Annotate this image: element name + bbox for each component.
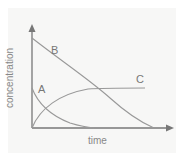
axes	[29, 24, 175, 132]
series-B-label: B	[51, 45, 58, 56]
x-axis-arrow-icon	[166, 125, 174, 132]
x-axis-label: time	[88, 135, 107, 146]
series-C-label: C	[136, 74, 144, 85]
series-C-line	[32, 88, 145, 128]
y-axis-label: concentration	[4, 48, 15, 108]
y-axis-arrow-icon	[29, 24, 36, 32]
series-A-label: A	[38, 84, 45, 95]
